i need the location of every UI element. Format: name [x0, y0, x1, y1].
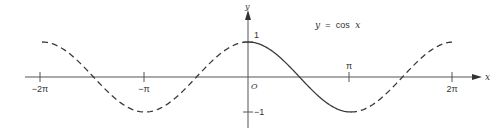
y-tick-label-1: 1: [254, 30, 259, 40]
x-tick-label-pi: π: [346, 61, 352, 71]
x-axis-label: x: [485, 72, 490, 82]
x-tick-label-neg-2pi: −2π: [32, 84, 48, 94]
origin-label: O: [251, 82, 258, 91]
equation-label: y = cos x: [314, 20, 360, 30]
x-axis-arrow-icon: [472, 74, 482, 80]
x-tick-label-2pi: 2π: [446, 84, 457, 94]
y-tick-label-neg1: −1: [254, 107, 264, 117]
x-tick-label-neg-pi: −π: [138, 84, 149, 94]
cosine-graph: x y O −2π −π π 2π 1 −1 y = cos x: [0, 0, 494, 135]
y-axis-arrow-icon: [245, 10, 251, 20]
y-axis-label: y: [244, 2, 250, 11]
